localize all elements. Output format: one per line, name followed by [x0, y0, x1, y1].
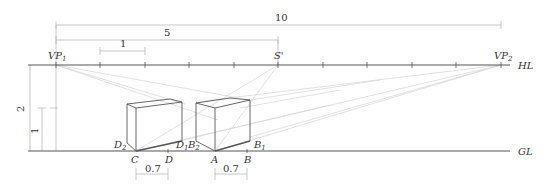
station-point-label: S' — [274, 50, 284, 61]
dim-half-label: 5 — [164, 27, 170, 38]
perspective-diagram: 10 5 1 2 1 0.7 0.7 VP1 VP2 S' HL GL D2 C… — [0, 0, 545, 187]
horizon-line — [28, 62, 510, 68]
dim-height-total-label: 2 — [15, 106, 26, 112]
dimension-lines — [30, 21, 501, 180]
labels: 10 5 1 2 1 0.7 0.7 VP1 VP2 S' HL GL D2 C… — [15, 12, 534, 174]
right-box — [196, 98, 250, 151]
dim-depth-right-label: 0.7 — [223, 163, 239, 174]
gl-label: GL — [518, 146, 533, 157]
point-a-label: A — [210, 154, 218, 165]
dim-unit-label: 1 — [120, 38, 126, 49]
dim-depth-left-label: 0.7 — [145, 163, 161, 174]
point-c-label: C — [131, 154, 139, 165]
vp2-label: VP2 — [494, 50, 513, 63]
point-b1-label: B1 — [253, 139, 266, 152]
point-d-label: D — [164, 154, 173, 165]
construction-lines — [56, 65, 501, 151]
point-b-label: B — [243, 154, 251, 165]
left-box — [127, 99, 182, 151]
dim-height-unit-label: 1 — [29, 128, 40, 134]
dim-total-label: 10 — [275, 12, 288, 23]
point-d2-label: D2 — [113, 139, 127, 152]
point-b2-label: B2 — [187, 139, 200, 152]
vp1-label: VP1 — [48, 50, 66, 63]
point-d1-label: D1 — [175, 139, 189, 152]
hl-label: HL — [517, 60, 534, 71]
